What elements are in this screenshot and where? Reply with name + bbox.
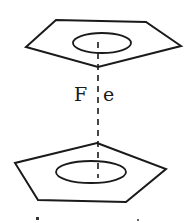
iron-label-f: F [74, 85, 87, 104]
top-ring-pentagon [26, 20, 181, 67]
bottom-ring-aromatic-circle [56, 161, 126, 183]
scan-speck [137, 219, 139, 221]
ferrocene-svg [0, 0, 190, 223]
bottom-ring-pentagon [15, 143, 166, 202]
iron-label-e: e [103, 85, 114, 104]
ferrocene-diagram: F e [0, 0, 190, 223]
top-ring-aromatic-circle [73, 33, 131, 53]
scan-speck [36, 217, 39, 220]
